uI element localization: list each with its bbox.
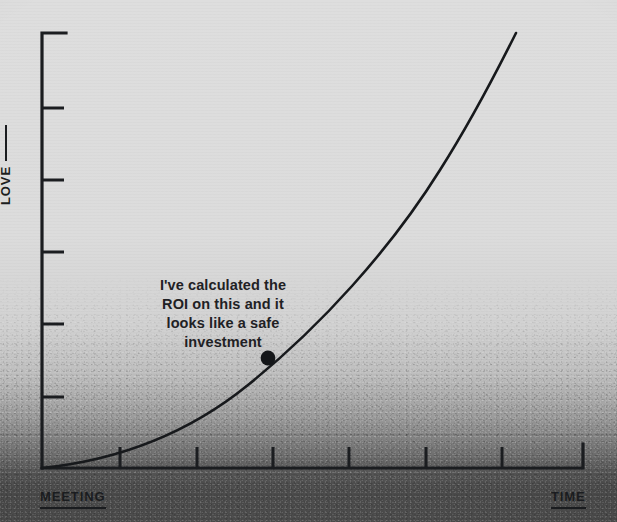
caption-underline	[40, 507, 106, 509]
comic-chart-image: I've calculated the ROI on this and it l…	[0, 0, 617, 522]
caption-underline	[551, 507, 586, 509]
y-axis-ticks	[42, 108, 64, 397]
x-axis-caption-label: TIME	[551, 489, 586, 504]
x-axis-origin-caption: MEETING	[40, 489, 106, 509]
x-axis-ticks	[120, 447, 502, 468]
chart-canvas	[0, 0, 617, 522]
caption-underline	[5, 125, 7, 161]
marker-point	[261, 351, 276, 366]
y-axis-caption: LOVE	[0, 125, 13, 205]
love-curve	[42, 33, 516, 468]
x-axis-origin-caption-label: MEETING	[40, 489, 106, 504]
annotation-text: I've calculated the ROI on this and it l…	[143, 276, 303, 352]
x-axis-caption: TIME	[551, 489, 586, 509]
y-axis-caption-label: LOVE	[0, 166, 13, 205]
